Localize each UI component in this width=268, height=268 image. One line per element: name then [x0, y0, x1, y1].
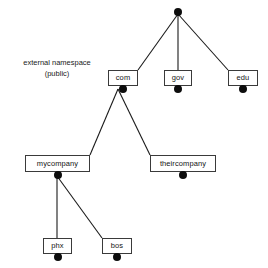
tree-node-label-gov: gov: [172, 74, 184, 82]
caption-line-2: (public): [8, 69, 106, 80]
tree-node-dot-gov[interactable]: [174, 85, 182, 93]
tree-node-dot-mycompany[interactable]: [54, 171, 62, 179]
tree-node-theircompany[interactable]: theircompany: [150, 155, 216, 172]
tree-node-phx[interactable]: phx: [43, 238, 72, 254]
tree-edge-root-to-com: [138, 14, 178, 70]
tree-node-dot-root[interactable]: [174, 8, 183, 17]
tree-edge-mycompany-to-bos: [57, 176, 102, 238]
namespace-tree-diagram: external namespace (public) comgovedumyc…: [0, 0, 268, 268]
tree-node-edu[interactable]: edu: [228, 70, 258, 86]
tree-node-dot-phx[interactable]: [54, 253, 62, 261]
external-namespace-caption: external namespace (public): [8, 58, 106, 79]
tree-node-com[interactable]: com: [108, 70, 138, 86]
caption-line-1: external namespace: [8, 58, 106, 69]
tree-node-label-mycompany: mycompany: [37, 160, 78, 168]
tree-node-label-edu: edu: [237, 74, 250, 82]
tree-edge-layer: [0, 0, 268, 268]
tree-node-label-bos: bos: [111, 242, 123, 250]
tree-node-dot-theircompany[interactable]: [179, 171, 187, 179]
tree-node-dot-edu[interactable]: [239, 85, 247, 93]
tree-edge-com-to-mycompany: [90, 89, 118, 155]
tree-node-label-theircompany: theircompany: [160, 160, 206, 168]
tree-node-dot-com[interactable]: [119, 85, 127, 93]
tree-node-label-com: com: [116, 74, 130, 82]
tree-edge-com-to-theircompany: [118, 89, 150, 155]
tree-node-dot-bos[interactable]: [113, 253, 121, 261]
tree-edge-root-to-edu: [178, 14, 228, 70]
tree-node-gov[interactable]: gov: [164, 70, 192, 86]
tree-node-mycompany[interactable]: mycompany: [25, 155, 90, 172]
tree-node-bos[interactable]: bos: [102, 238, 132, 254]
tree-node-label-phx: phx: [51, 242, 63, 250]
